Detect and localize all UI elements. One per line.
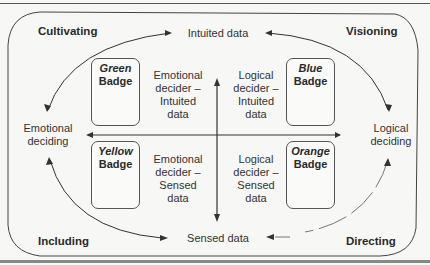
- decider-logical-sensed: Logical decider – Sensed data: [228, 153, 284, 205]
- axis-label-emotional-deciding: Emotional deciding: [18, 122, 78, 148]
- decider-logical-intuited: Logical decider – Intuited data: [228, 69, 284, 121]
- badge-yellow: Yellow Badge: [91, 141, 140, 209]
- badge-word: Badge: [287, 75, 334, 88]
- badge-color-name: Yellow: [92, 145, 139, 158]
- quadrant-label-directing: Directing: [346, 235, 396, 248]
- badge-color-name: Blue: [287, 62, 334, 75]
- decider-emotional-intuited: Emotional decider – Intuited data: [150, 69, 206, 121]
- quadrant-label-including: Including: [38, 235, 89, 248]
- badge-green: Green Badge: [91, 58, 140, 126]
- quadrant-label-cultivating: Cultivating: [38, 25, 97, 38]
- axis-label-logical-deciding: Logical deciding: [366, 122, 416, 148]
- badge-orange: Orange Badge: [286, 141, 335, 209]
- decider-emotional-sensed: Emotional decider – Sensed data: [150, 153, 206, 205]
- badge-word: Badge: [287, 158, 334, 171]
- axis-label-sensed-data: Sensed data: [174, 232, 262, 245]
- badge-blue: Blue Badge: [286, 58, 335, 126]
- quadrant-label-visioning: Visioning: [346, 25, 398, 38]
- badge-color-name: Green: [92, 62, 139, 75]
- badge-word: Badge: [92, 75, 139, 88]
- badge-color-name: Orange: [287, 145, 334, 158]
- axis-label-intuited-data: Intuited data: [174, 27, 262, 40]
- badge-word: Badge: [92, 158, 139, 171]
